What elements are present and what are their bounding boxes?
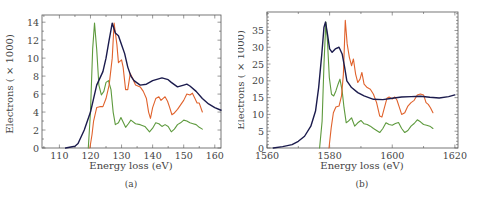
series-line-navy xyxy=(273,22,455,148)
y-tick-label: 15 xyxy=(252,92,264,103)
y-tick-label: 20 xyxy=(252,75,264,86)
series-line-green xyxy=(88,23,202,148)
y-tick-label: 10 xyxy=(27,53,39,64)
x-tick-label: 1620 xyxy=(443,150,467,161)
plot-frame-b xyxy=(267,12,458,148)
y-tick-label: 0 xyxy=(33,143,39,154)
y-tick-label: 6 xyxy=(33,89,39,100)
x-axis-ticks-b: 1560158016001620 xyxy=(255,12,467,161)
chart-b: 05101520253035 1560158016001620 Electron… xyxy=(238,0,478,200)
y-tick-label: 12 xyxy=(27,35,39,46)
y-axis-ticks-b: 05101520253035 xyxy=(252,14,458,154)
caption-b: (b) xyxy=(356,179,369,189)
series-line-green xyxy=(320,22,433,148)
x-axis-label-b: Energy loss (eV) xyxy=(320,160,403,171)
y-tick-label: 5 xyxy=(258,126,264,137)
y-tick-label: 4 xyxy=(33,107,39,118)
plot-area-border xyxy=(42,15,221,148)
series-line-orange xyxy=(329,20,433,148)
figure-a: 02468101214 110120130140150160 Electrons… xyxy=(0,0,240,200)
caption-a: (a) xyxy=(125,179,137,189)
y-axis-ticks-a: 02468101214 xyxy=(27,17,221,154)
y-tick-label: 25 xyxy=(252,59,264,70)
y-axis-label-a: Electrons ( × 1000) xyxy=(4,34,15,134)
y-axis-label-b: Electrons ( × 1000) xyxy=(238,30,246,130)
x-tick-label: 160 xyxy=(206,150,224,161)
plot-frame-a xyxy=(42,15,221,148)
y-tick-label: 10 xyxy=(252,109,264,120)
x-tick-label: 110 xyxy=(50,150,68,161)
plot-area-border xyxy=(267,12,458,148)
chart-a: 02468101214 110120130140150160 Electrons… xyxy=(0,0,240,200)
x-tick-label: 150 xyxy=(175,150,193,161)
figure-b: 05101520253035 1560158016001620 Electron… xyxy=(238,0,478,200)
y-tick-label: 35 xyxy=(252,25,264,36)
series-line-orange xyxy=(90,23,202,148)
y-tick-label: 14 xyxy=(27,17,39,28)
x-axis-ticks-a: 110120130140150160 xyxy=(44,15,224,161)
series-group-a xyxy=(66,23,221,148)
y-tick-label: 8 xyxy=(33,71,39,82)
x-axis-label-a: Energy loss (eV) xyxy=(89,160,172,171)
x-tick-label: 1560 xyxy=(255,150,279,161)
y-tick-label: 2 xyxy=(33,125,39,136)
series-group-b xyxy=(273,20,455,148)
y-tick-label: 30 xyxy=(252,42,264,53)
